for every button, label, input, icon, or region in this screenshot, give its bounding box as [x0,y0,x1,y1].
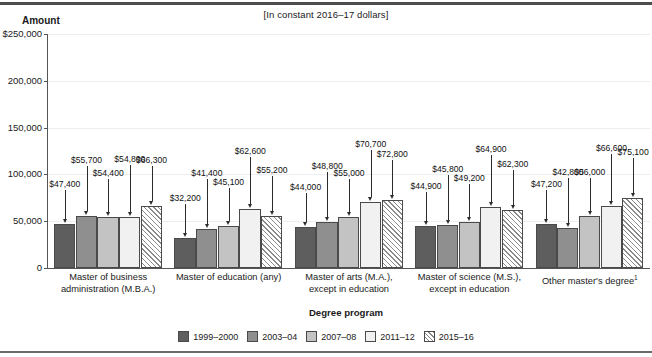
bar [295,227,316,268]
y-axis-title: Amount [22,15,60,26]
category-label-line: administration (M.B.A.) [40,284,176,296]
value-leader-line [392,160,393,195]
bar-value-label: $47,200 [526,179,566,189]
category-label-line: Master of arts (M.A.), [281,272,417,284]
bar [459,222,480,268]
category-label-line: except in education [401,284,537,296]
bar [54,224,75,268]
legend-swatch [365,331,376,342]
bar [141,206,162,268]
bar-group: $47,200$42,800$56,000$66,600$75,100 [530,34,650,268]
legend-label: 1999–2000 [193,332,238,342]
bar [437,225,458,268]
bar [316,222,337,268]
value-leader-line [426,192,427,221]
bar-value-label: $44,900 [406,181,446,191]
bar-value-label: $45,100 [209,177,249,187]
bar [119,217,140,268]
figure-root: [In constant 2016–17 dollars] Amount 050… [0,0,652,357]
value-leader-line [546,190,547,219]
bar-value-label: $62,300 [493,159,533,169]
bar-value-label: $72,800 [372,149,412,159]
x-axis-category-label: Master of education (any) [160,272,296,284]
value-leader-line [108,179,109,212]
x-axis-category-label: Master of businessadministration (M.B.A.… [40,272,176,295]
bar-group: $47,400$55,700$54,400$54,800$66,300 [48,34,168,268]
x-axis-category-label: Master of arts (M.A.),except in educatio… [281,272,417,295]
bar-group: $44,000$48,800$55,000$70,700$72,800 [289,34,409,268]
bottom-rule [0,351,652,353]
units-note: [In constant 2016–17 dollars] [0,9,652,20]
value-leader-line [568,178,569,223]
bar [536,224,557,268]
bar [601,206,622,268]
bar-value-label: $32,200 [165,193,205,203]
y-tick-label: 50,000 [13,215,42,226]
bar [338,217,359,268]
bar [196,229,217,268]
category-label-line: Master of science (M.S.), [401,272,537,284]
bar-value-label: $49,200 [449,173,489,183]
category-label-line: Other master's degree1 [522,272,652,288]
bar-value-label: $47,400 [45,179,85,189]
bar [218,226,239,268]
legend-swatch [178,331,189,342]
bar [480,207,501,268]
legend-swatch [306,331,317,342]
value-leader-line [513,170,514,205]
category-label-line: Master of education (any) [160,272,296,284]
x-axis-title: Degree program [0,307,652,318]
value-leader-line [633,158,634,193]
y-tick-label: 100,000 [8,168,42,179]
y-tick-label: 200,000 [8,75,42,86]
bar-group: $32,200$41,400$45,100$62,600$55,200 [168,34,288,268]
legend-label: 2015–16 [439,332,474,342]
value-leader-line [65,190,66,219]
value-leader-line [152,166,153,201]
x-axis-line [47,268,650,269]
value-leader-line [130,165,131,212]
y-tick-label: $250,000 [2,28,42,39]
legend-item[interactable]: 2011–12 [365,331,414,342]
bar-value-label: $70,700 [351,139,391,149]
bar-value-label: $55,200 [252,165,292,175]
bar-value-label: $66,300 [132,155,172,165]
bar-value-label: $64,900 [471,144,511,154]
bar-group: $44,900$45,800$49,200$64,900$62,300 [409,34,529,268]
legend-swatch [247,331,258,342]
bar [97,217,118,268]
legend: 1999–20002003–042007–082011–122015–16 [0,331,652,342]
x-axis-category-label: Master of science (M.S.),except in educa… [401,272,537,295]
value-leader-line [469,184,470,217]
bar-value-label: $56,000 [570,167,610,177]
bar-value-label: $55,700 [67,155,107,165]
bar [239,209,260,268]
legend-label: 2011–12 [380,332,414,342]
value-leader-line [306,193,307,222]
legend-label: 2003–04 [262,332,297,342]
footnote-marker: 1 [634,274,638,281]
plot-area: 050,000100,000150,000200,000$250,000 $47… [48,34,650,268]
legend-item[interactable]: 1999–2000 [178,331,238,342]
value-leader-line [349,179,350,212]
legend-item[interactable]: 2003–04 [247,331,297,342]
bar-value-label: $62,600 [230,146,270,156]
bar-value-label: $54,400 [88,168,128,178]
legend-item[interactable]: 2007–08 [306,331,356,342]
y-tick-label: 150,000 [8,122,42,133]
legend-swatch [424,331,435,342]
legend-item[interactable]: 2015–16 [424,331,474,342]
value-leader-line [272,176,273,211]
bar [360,202,381,268]
x-axis-category-label: Other master's degree1 [522,272,652,288]
bar [261,216,282,268]
bar [579,216,600,268]
value-leader-line [611,154,612,201]
bar-value-label: $55,000 [329,168,369,178]
legend-label: 2007–08 [321,332,356,342]
bar-value-label: $75,100 [613,147,652,157]
category-label-line: Master of business [40,272,176,284]
y-tick-mark [44,268,48,269]
bar-value-label: $44,000 [286,182,326,192]
bar [76,216,97,268]
